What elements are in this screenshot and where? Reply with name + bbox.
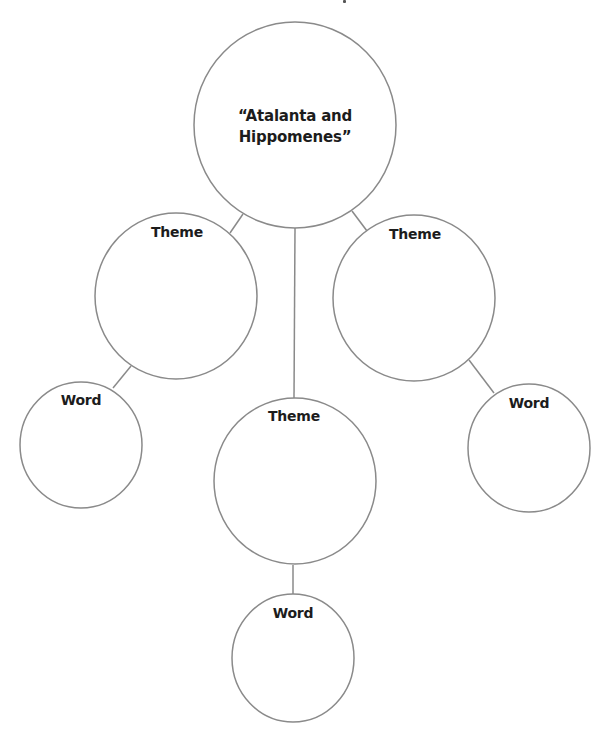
- theme-left-label: Theme: [137, 222, 217, 242]
- connector-theme-right-to-word-right: [469, 360, 494, 393]
- connector-center-to-theme-right: [352, 211, 367, 231]
- word-center-label: Word: [253, 603, 333, 623]
- word-right-label: Word: [489, 393, 569, 413]
- center-node-label: “Atalanta and Hippomenes”: [235, 106, 355, 148]
- theme-right-label: Theme: [375, 224, 455, 244]
- word-left-label: Word: [41, 390, 121, 410]
- connector-center-to-theme-center: [294, 228, 295, 398]
- theme-center-label: Theme: [254, 406, 334, 426]
- connector-center-to-theme-left: [230, 214, 243, 233]
- connector-theme-left-to-word-left: [113, 366, 131, 388]
